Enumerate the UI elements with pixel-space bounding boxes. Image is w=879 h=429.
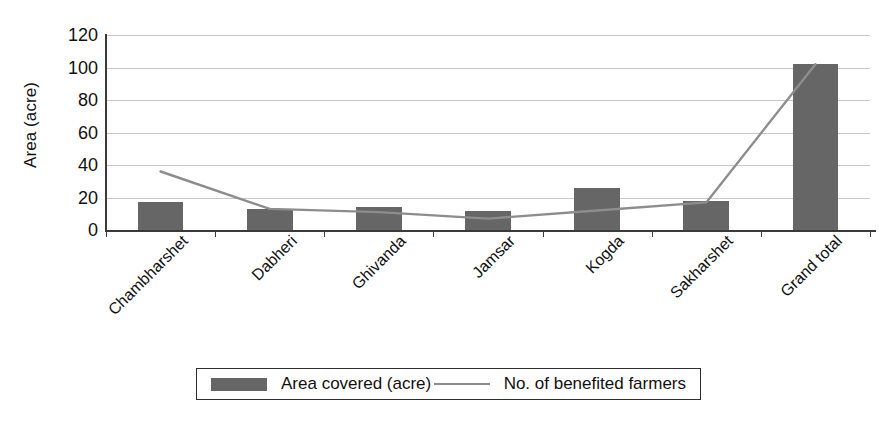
- legend-label-area-covered: Area covered (acre): [281, 374, 431, 394]
- legend-swatch-icon: [211, 378, 267, 391]
- x-axis-label: Ghivanda: [348, 232, 409, 293]
- y-axis-title-text: Area (acre): [21, 82, 41, 168]
- combo-bar-line-chart: Area (acre) 020406080100120 Chambharshet…: [0, 0, 879, 429]
- y-axis-tick-40: 40: [78, 156, 98, 174]
- chart-legend: Area covered (acre) No. of benefited far…: [196, 368, 701, 400]
- y-axis-tick-80: 80: [78, 91, 98, 109]
- x-axis-label: Grand total: [777, 232, 846, 301]
- y-axis-title: Area (acre): [14, 0, 48, 250]
- legend-item-area-covered: Area covered (acre): [211, 374, 431, 394]
- x-axis-label: Chambharshet: [104, 232, 191, 319]
- y-axis-tick-20: 20: [78, 189, 98, 207]
- y-axis-tick-60: 60: [78, 124, 98, 142]
- line-series: [106, 35, 870, 230]
- x-axis-category-labels: ChambharshetDabheriGhivandaJamsarKogdaSa…: [106, 232, 870, 362]
- y-axis-tick-0: 0: [88, 221, 98, 239]
- legend-label-benefited-farmers: No. of benefited farmers: [504, 374, 686, 394]
- y-axis-tick-120: 120: [68, 26, 98, 44]
- y-axis-tick-labels: 020406080100120: [44, 20, 102, 235]
- legend-item-benefited-farmers: No. of benefited farmers: [434, 374, 686, 394]
- x-axis-label: Dabheri: [248, 232, 300, 284]
- plot-area: [106, 35, 870, 230]
- line-series-path: [161, 64, 816, 218]
- legend-line-icon: [434, 383, 490, 385]
- x-axis-label: Sakharshet: [667, 232, 737, 302]
- x-axis-label: Kogda: [582, 232, 627, 277]
- y-axis-tick-100: 100: [68, 59, 98, 77]
- x-axis-tickmark: [870, 231, 871, 237]
- x-axis-label: Jamsar: [469, 232, 519, 282]
